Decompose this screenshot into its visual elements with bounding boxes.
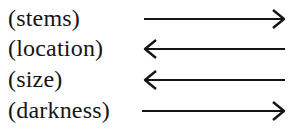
label-darkness: (darkness) [8, 95, 110, 125]
label-stems: (stems) [8, 3, 80, 33]
left-arrow-icon [142, 64, 288, 94]
left-arrow-icon [142, 33, 288, 63]
row-stems: (stems) [0, 3, 296, 33]
label-size: (size) [8, 64, 63, 94]
right-arrow-icon [142, 3, 288, 33]
row-location: (location) [0, 33, 296, 63]
right-arrow-icon [142, 95, 288, 125]
row-size: (size) [0, 64, 296, 94]
row-darkness: (darkness) [0, 95, 296, 125]
label-location: (location) [8, 33, 103, 63]
